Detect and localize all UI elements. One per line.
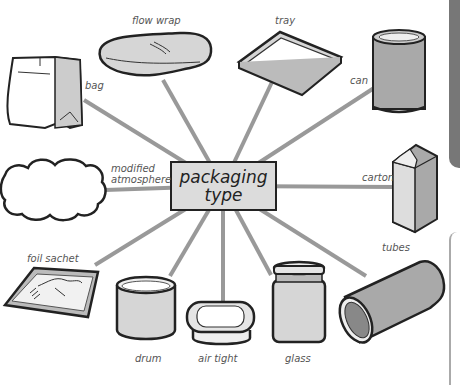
bag-icon [7,57,82,128]
label-bag: bag [85,80,104,91]
center-title-line1: packaging [172,168,275,186]
center-title-line2: type [172,186,275,204]
label-modified: modified [111,163,171,174]
glass-jar-icon [273,262,325,342]
flow-wrap-icon [100,33,212,75]
label-atmosphere: atmosphere [111,174,171,185]
tray-icon [239,32,341,95]
drum-icon [117,277,175,339]
can-icon [373,30,425,112]
label-foil-sachet: foil sachet [27,253,79,264]
page-edge-tab [449,0,460,168]
cloud-icon [1,159,106,220]
central-node-packaging-type: packaging type [170,161,277,211]
tubes-icon [333,261,444,347]
label-drum: drum [135,353,162,364]
label-tray: tray [275,15,295,26]
label-flow-wrap: flow wrap [132,15,181,26]
label-air-tight: air tight [198,353,238,364]
carton-icon [393,145,437,232]
label-carton: carton [362,172,394,183]
foil-sachet-icon [5,268,98,317]
label-tubes: tubes [382,242,410,253]
label-can: can [350,75,368,86]
label-glass: glass [285,353,311,364]
page-edge-border [449,232,460,385]
air-tight-icon [187,302,254,344]
label-modified-atmosphere: modified atmosphere [111,163,171,185]
